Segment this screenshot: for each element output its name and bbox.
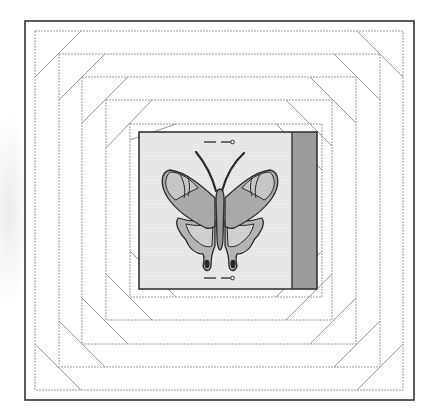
- miter-br-1: [357, 344, 403, 390]
- bottom-grain-arrow-head: [231, 276, 235, 280]
- right-tail-spot: [231, 261, 235, 268]
- side-strip-fill: [292, 132, 317, 289]
- left-tail-spot: [205, 261, 209, 268]
- miter-bl-3: [82, 298, 128, 344]
- miter-br-3: [310, 298, 356, 344]
- quilt-diagram: [0, 0, 429, 409]
- top-grain-arrow-head: [231, 140, 235, 144]
- butterfly-body: [216, 189, 224, 250]
